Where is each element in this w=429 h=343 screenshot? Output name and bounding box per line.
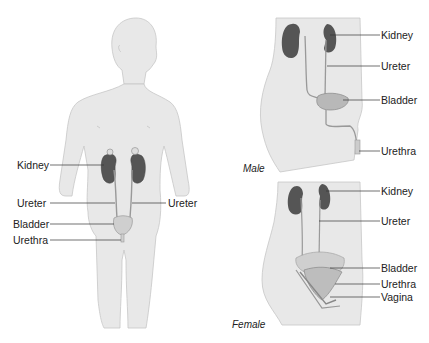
label-front-bladder: Bladder [13, 218, 49, 230]
label-male-kidney: Kidney [381, 29, 413, 41]
label-front-ureter-right: Ureter [168, 197, 197, 209]
label-male-urethra: Urethra [381, 145, 416, 157]
label-front-kidney: Kidney [17, 159, 49, 171]
label-female-ureter: Ureter [381, 215, 410, 227]
label-female-bladder: Bladder [381, 262, 417, 274]
urinary-system-diagram [0, 0, 429, 343]
label-male-bladder: Bladder [381, 94, 417, 106]
label-male-ureter: Ureter [381, 60, 410, 72]
label-female-vagina: Vagina [381, 291, 413, 303]
caption-female: Female [232, 319, 265, 330]
male-body-figure [260, 18, 362, 172]
label-female-kidney: Kidney [381, 185, 413, 197]
label-front-urethra: Urethra [13, 234, 48, 246]
caption-male: Male [243, 163, 265, 174]
label-front-ureter-left: Ureter [17, 197, 46, 209]
front-body-figure [59, 18, 189, 328]
label-female-urethra: Urethra [381, 278, 416, 290]
